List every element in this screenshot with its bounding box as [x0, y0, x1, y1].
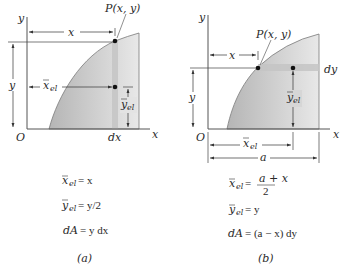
equation-b-1: x el = a + x 2 — [229, 172, 289, 197]
svg-text:x: x — [243, 137, 250, 150]
point-p-label: P(x, y) — [104, 2, 140, 15]
p-leader-line — [117, 14, 126, 38]
svg-text:el: el — [69, 204, 77, 213]
svg-text:= x: = x — [78, 174, 93, 186]
y-axis-label: y — [17, 12, 25, 25]
shaded-region — [49, 33, 139, 129]
svg-text:= (a − x) dy: = (a − x) dy — [245, 227, 298, 240]
a-dimension-label: a — [260, 151, 267, 164]
point-p-label: P(x, y) — [255, 28, 291, 41]
y-dimension-label: y — [188, 91, 196, 104]
centroid-diagram: y x O x y x el P(x, y) — [0, 0, 355, 271]
caption-b: (b) — [258, 252, 274, 265]
svg-text:dA: dA — [63, 224, 78, 237]
svg-text:el: el — [236, 182, 244, 191]
y-axis-label: y — [198, 11, 206, 24]
panel-a: y x O x y x el P(x, y) — [7, 2, 159, 265]
x-axis-label: x — [333, 128, 340, 141]
horizontal-strip-dy — [258, 64, 319, 71]
equation-b-3: dA = (a − x) dy — [228, 227, 298, 240]
equation-a-1: x el = x — [62, 174, 93, 188]
centroid-dot — [291, 66, 296, 71]
origin-label: O — [16, 131, 25, 144]
svg-text:= y dx: = y dx — [80, 224, 109, 236]
caption-a: (a) — [77, 252, 92, 265]
origin-label: O — [196, 131, 205, 144]
x-axis-label: x — [152, 128, 159, 141]
svg-text:el: el — [250, 142, 258, 151]
equation-a-2: y el = y/2 — [61, 199, 101, 213]
svg-text:el: el — [293, 96, 301, 105]
equation-b-2: y el = y — [228, 203, 260, 217]
shaded-region — [227, 34, 319, 129]
svg-text:el: el — [236, 208, 244, 217]
svg-text:= y/2: = y/2 — [78, 199, 101, 211]
svg-text:dA: dA — [228, 227, 243, 240]
svg-text:el: el — [127, 103, 135, 112]
x-dimension-label: x — [229, 49, 236, 62]
point-p — [256, 66, 261, 71]
point-p — [113, 39, 118, 44]
x-dimension-label: x — [68, 26, 75, 39]
svg-text:a + x: a + x — [259, 172, 289, 185]
svg-text:x: x — [229, 177, 236, 190]
svg-text:el: el — [50, 84, 58, 93]
equation-a-3: dA = y dx — [63, 224, 109, 237]
strip-dx-label: dx — [108, 131, 122, 144]
svg-text:x: x — [62, 174, 69, 187]
y-dimension-label: y — [8, 79, 16, 92]
strip-dy-label: dy — [324, 63, 338, 76]
svg-text:x: x — [43, 79, 50, 92]
svg-text:el: el — [69, 179, 77, 188]
svg-text:2: 2 — [263, 185, 269, 197]
panel-b: y x O x y P(x, y) dy y el — [187, 11, 340, 265]
svg-text:y: y — [228, 203, 236, 216]
centroid-dot — [113, 85, 118, 90]
svg-text:= y: = y — [245, 203, 260, 215]
svg-text:=: = — [245, 177, 251, 189]
svg-text:y: y — [61, 199, 69, 212]
